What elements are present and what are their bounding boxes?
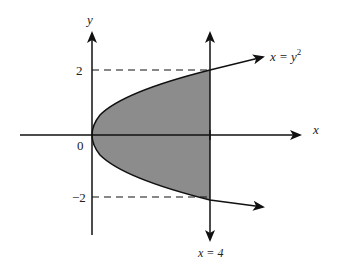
curve-label-lhs: x = y: [269, 49, 297, 64]
curve-label: x = y2: [269, 47, 301, 64]
y-axis-label: y: [85, 12, 93, 27]
tick-label-y-neg2: −2: [72, 190, 86, 205]
x-axis-label: x: [312, 122, 319, 137]
tick-label-y-2: 2: [76, 63, 83, 78]
parabola-region-diagram: y x 0 2 −2 x = y2 x = 4: [0, 0, 337, 272]
curve-label-exponent: 2: [297, 47, 302, 57]
origin-label: 0: [77, 138, 84, 153]
diagram-canvas: y x 0 2 −2 x = y2 x = 4: [0, 0, 337, 272]
vertical-line-label: x = 4: [197, 246, 223, 260]
